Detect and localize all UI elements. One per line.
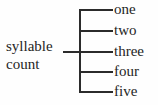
root-label: syllable count (6, 37, 66, 73)
branch-line-three (79, 51, 113, 53)
branch-label-five: five (114, 84, 137, 99)
bracket-tree-diagram: syllable count one two three four five (0, 0, 158, 105)
branch-label-four: four (114, 64, 139, 79)
branch-line-five (79, 91, 113, 93)
branch-label-three: three (114, 44, 144, 59)
branch-label-one: one (114, 2, 136, 17)
branch-label-two: two (114, 23, 137, 38)
branch-line-two (79, 30, 113, 32)
root-label-line-2: count (6, 55, 66, 73)
root-label-line-1: syllable (6, 37, 66, 55)
root-stem-line (63, 51, 80, 53)
branch-line-four (79, 71, 113, 73)
branch-line-one (79, 9, 113, 11)
